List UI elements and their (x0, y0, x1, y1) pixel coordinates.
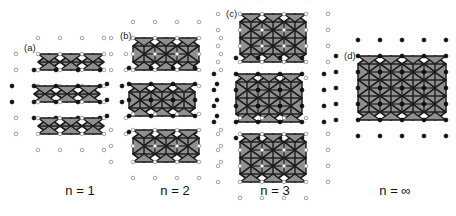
panel-d: (d) (350, 48, 456, 158)
caption-n1: n = 1 (40, 183, 120, 198)
panel-b: (b) (125, 28, 235, 168)
ruddlesden-popper-figure: (a) (b) (c) (d) n = 1 n = 2 n = 3 n = ∞ (0, 0, 456, 216)
caption-n3: n = 3 (235, 183, 315, 198)
panel-a-structure (30, 40, 140, 160)
panel-a-label: (a) (24, 42, 36, 53)
panel-d-structure (350, 48, 456, 158)
panel-b-label: (b) (120, 30, 132, 41)
caption-n2: n = 2 (135, 183, 215, 198)
panel-c-structure (232, 6, 342, 181)
panel-d-label: (d) (344, 50, 356, 61)
panel-c-label: (c) (226, 8, 237, 19)
panel-c: (c) (232, 6, 342, 181)
panel-b-structure (125, 28, 235, 168)
caption-ninf: n = ∞ (350, 183, 440, 198)
panel-a: (a) (30, 40, 140, 160)
